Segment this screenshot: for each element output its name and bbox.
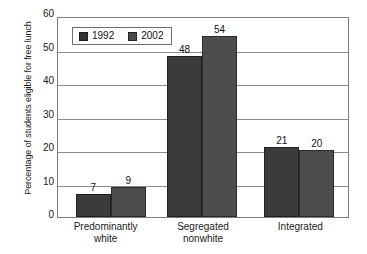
- bar-group: 2120: [264, 18, 334, 217]
- y-axis-tick-label: 10: [30, 177, 54, 187]
- bar-value-label: 54: [214, 24, 225, 35]
- bar-value-label: 7: [90, 182, 96, 193]
- plot-area: 7948542120 19922002: [57, 17, 349, 218]
- x-axis-category-label-line: Integrated: [252, 221, 349, 233]
- chart-legend: 19922002: [72, 27, 172, 45]
- y-axis-tick-label: 20: [30, 143, 54, 153]
- bar-value-label: 9: [125, 175, 131, 186]
- y-axis-tick-label: 40: [30, 76, 54, 86]
- bar-value-label: 48: [179, 44, 190, 55]
- bar-value-label: 20: [311, 138, 322, 149]
- x-axis-category-label: Predominantlywhite: [57, 221, 154, 245]
- bar: 21: [264, 147, 299, 217]
- bar: 7: [76, 194, 111, 217]
- legend-swatch-icon: [128, 32, 137, 41]
- y-axis-tick-label: 60: [30, 9, 54, 19]
- legend-swatch-icon: [79, 32, 88, 41]
- bar: 54: [202, 36, 237, 217]
- legend-entry: 2002: [128, 31, 163, 41]
- x-axis-category-label-line: Segregated: [154, 221, 251, 233]
- y-axis-tick-label: 30: [30, 110, 54, 120]
- bar-group: 4854: [167, 18, 237, 217]
- legend-label: 1992: [92, 31, 114, 41]
- y-axis-tick-labels: 0102030405060: [30, 14, 54, 219]
- legend-label: 2002: [141, 31, 163, 41]
- bar: 48: [167, 56, 202, 217]
- bar-chart-figure: Percentage of students eligible for free…: [0, 0, 367, 254]
- bar-group: 79: [76, 18, 146, 217]
- x-axis-category-label: Integrated: [252, 221, 349, 233]
- legend-entry: 1992: [79, 31, 114, 41]
- x-axis-category-labels: PredominantlywhiteSegregatednonwhiteInte…: [57, 221, 349, 253]
- x-axis-category-label: Segregatednonwhite: [154, 221, 251, 245]
- x-axis-category-label-line: nonwhite: [154, 233, 251, 245]
- x-axis-category-label-line: Predominantly: [57, 221, 154, 233]
- y-axis-tick-label: 50: [30, 43, 54, 53]
- bar: 20: [299, 150, 334, 217]
- bars-layer: 7948542120: [58, 18, 348, 217]
- bar: 9: [111, 187, 146, 217]
- bar-value-label: 21: [276, 135, 287, 146]
- x-axis-category-label-line: white: [57, 233, 154, 245]
- y-axis-tick-label: 0: [30, 210, 54, 220]
